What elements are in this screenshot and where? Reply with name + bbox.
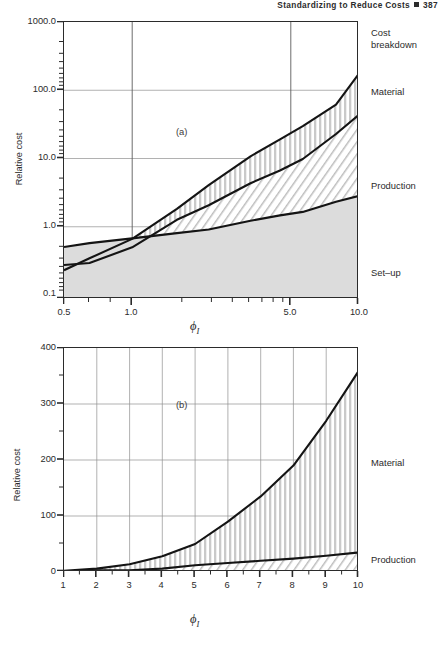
figure-b: Relative cost 400 300 200 100 0 xyxy=(0,340,444,648)
figure-b-ytick-0: 0 xyxy=(16,566,56,576)
running-header: Standardizing to Reduce Costs387 xyxy=(0,0,444,14)
figure-a-ytick-100: 100.0 xyxy=(8,84,56,94)
page-number: 387 xyxy=(423,0,438,10)
figure-a-ytick-1000: 1000.0 xyxy=(8,16,56,26)
figure-a-plot-area xyxy=(63,21,358,298)
figure-b-xtick-5: 5 xyxy=(181,580,207,590)
figure-a-ytick-0.1: 0.1 xyxy=(8,288,56,298)
figure-a-sidelabel-cost-breakdown-line1: Cost xyxy=(371,27,417,39)
figure-a-xtick-1.0: 1.0 xyxy=(115,307,147,317)
figure-a-ytick-10: 10.0 xyxy=(8,152,56,162)
figure-b-xtick-1: 1 xyxy=(50,580,76,590)
figure-b-xtick-2: 2 xyxy=(83,580,109,590)
figure-a-sidelabel-cost-breakdown-line2: breakdown xyxy=(371,39,417,51)
figure-a-sidelabel-production: Production xyxy=(371,180,416,192)
figure-a-sidelabel-material: Material xyxy=(371,86,404,98)
figure-b-ytick-100: 100 xyxy=(16,510,56,520)
figure-b-material-band xyxy=(64,370,358,571)
figure-a-sidelabel-cost-breakdown: Cost breakdown xyxy=(371,27,417,50)
figure-b-xtick-8: 8 xyxy=(279,580,305,590)
figure-b-panel-label: (b) xyxy=(176,399,187,410)
figure-b-xtick-9: 9 xyxy=(312,580,338,590)
figure-b-xlabel: ϕI xyxy=(190,612,199,629)
figure-b-sidelabel-material: Material xyxy=(371,457,404,469)
figure-a: Relative cost 1000.0 100.0 10.0 1.0 0.1 xyxy=(0,14,444,334)
running-header-title: Standardizing to Reduce Costs xyxy=(277,0,410,10)
figure-page: Standardizing to Reduce Costs387 Relativ… xyxy=(0,0,444,648)
figure-b-ytick-300: 300 xyxy=(16,398,56,408)
figure-a-xlabel-subscript: I xyxy=(196,326,199,336)
figure-a-xtick-0.5: 0.5 xyxy=(48,307,80,317)
figure-b-x-minor-ticks xyxy=(63,571,359,578)
figure-a-xlabel: ϕI xyxy=(190,319,199,336)
figure-a-y-minor-ticks xyxy=(57,21,63,298)
figure-a-ytick-1: 1.0 xyxy=(8,220,56,230)
figure-a-xtick-10.0: 10.0 xyxy=(342,307,376,317)
figure-b-y-minor-ticks xyxy=(57,347,63,571)
figure-b-xtick-7: 7 xyxy=(246,580,272,590)
figure-b-xtick-10: 10 xyxy=(344,580,372,590)
figure-a-panel-label: (a) xyxy=(176,126,187,137)
figure-b-plot-area xyxy=(63,347,358,571)
figure-b-canvas xyxy=(64,348,357,570)
figure-a-x-minor-ticks xyxy=(63,298,359,305)
figure-b-xtick-6: 6 xyxy=(214,580,240,590)
figure-b-ylabel: Relative cost xyxy=(12,440,22,510)
figure-b-sidelabel-production: Production xyxy=(371,554,416,566)
figure-a-canvas xyxy=(64,22,357,297)
figure-b-ytick-200: 200 xyxy=(16,454,56,464)
running-header-text: Standardizing to Reduce Costs387 xyxy=(277,0,438,10)
figure-a-xtick-5.0: 5.0 xyxy=(274,307,306,317)
figure-b-xtick-3: 3 xyxy=(116,580,142,590)
figure-a-sidelabel-setup: Set–up xyxy=(371,267,401,279)
figure-b-ytick-400: 400 xyxy=(16,342,56,352)
square-bullet-icon xyxy=(414,2,419,7)
figure-b-xlabel-subscript: I xyxy=(196,619,199,629)
figure-b-xtick-4: 4 xyxy=(148,580,174,590)
